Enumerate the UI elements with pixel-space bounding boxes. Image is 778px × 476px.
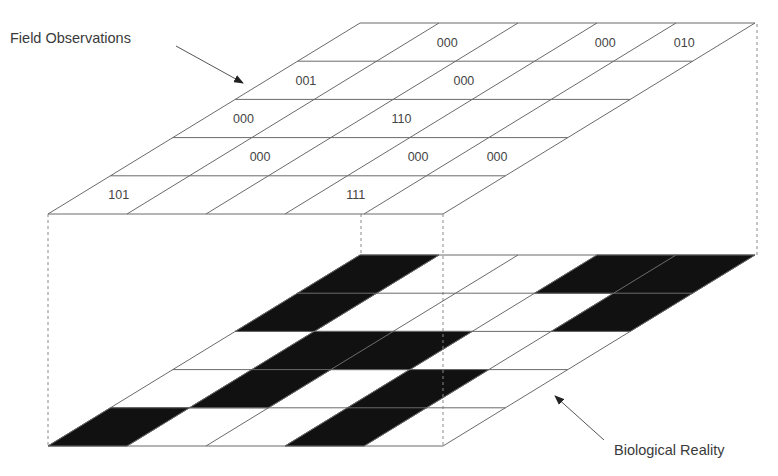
biological-reality-arrow-icon (555, 396, 604, 440)
field-observations-grid-col-line (285, 23, 597, 214)
occupied-cell (347, 370, 488, 408)
occupied-cell (48, 408, 189, 446)
observation-code: 001 (295, 74, 316, 88)
diagram-canvas: 101111000000000000110001000000000010 Fie… (0, 0, 778, 476)
field-observations-grid-col-line (48, 23, 360, 214)
observation-code: 000 (250, 150, 271, 164)
occupied-cell (551, 293, 692, 331)
observation-code: 000 (595, 36, 616, 50)
field-observations-caption: Field Observations (10, 30, 131, 46)
observation-code: 010 (674, 36, 695, 50)
observation-code: 110 (392, 112, 412, 126)
biological-reality-occupied-cells (48, 255, 755, 446)
observation-code: 000 (408, 150, 429, 164)
occupied-cell (235, 293, 376, 331)
observation-code: 111 (346, 188, 365, 202)
diagram-svg: 101111000000000000110001000000000010 Fie… (0, 0, 778, 476)
occupied-cell (285, 408, 426, 446)
field-observations-grid-col-line (443, 23, 755, 214)
observation-code: 000 (233, 112, 254, 126)
observation-code: 000 (453, 74, 474, 88)
occupied-cell (298, 255, 439, 293)
biological-reality-caption: Biological Reality (614, 442, 725, 458)
observation-code: 000 (487, 150, 508, 164)
occupied-cell (189, 370, 330, 408)
field-observations-arrow-icon (176, 46, 243, 83)
observation-code: 101 (108, 188, 129, 202)
observation-code: 000 (437, 36, 458, 50)
field-observation-codes: 101111000000000000110001000000000010 (108, 36, 695, 203)
